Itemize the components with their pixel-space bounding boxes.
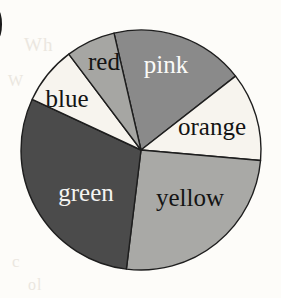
page-root: Wh W c ol ) pinkorangeyellowgreenbluered [0,0,281,298]
pie-slice-label-green: green [58,179,114,206]
pie-slice-label-orange: orange [178,113,246,140]
pie-chart-svg: pinkorangeyellowgreenbluered [0,0,281,298]
pie-slice-label-blue: blue [45,85,88,112]
pie-slice-label-yellow: yellow [156,184,224,211]
pie-slice-label-red: red [88,48,120,75]
pie-slice-label-pink: pink [144,51,189,78]
pie-slices-group [21,30,261,270]
pie-chart: pinkorangeyellowgreenbluered [0,0,281,298]
